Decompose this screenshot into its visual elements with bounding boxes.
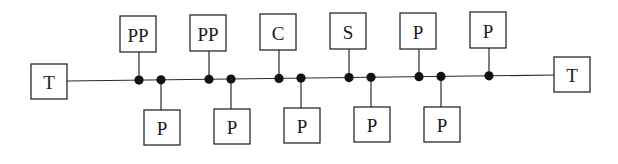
station-s-top: S <box>330 13 366 49</box>
terminator-right-label: T <box>566 65 578 86</box>
station-p-bottom: P <box>144 110 180 145</box>
station-p-bottom-label: P <box>437 115 448 136</box>
station-p-bottom-label: P <box>227 117 238 138</box>
station-p-top-label: P <box>483 21 494 42</box>
terminator-left-label: T <box>43 72 55 93</box>
terminator-left: T <box>31 64 67 99</box>
station-pp-top-label: PP <box>127 25 148 46</box>
station-p-bottom-label: P <box>367 115 378 136</box>
bus-network-diagram: TTPPPPPPCPSPPPP <box>0 0 618 164</box>
station-pp-top: PP <box>190 15 226 51</box>
tap-node-dot <box>484 71 493 80</box>
station-p-top-label: P <box>413 22 424 43</box>
tap-node-dot <box>344 73 353 82</box>
tap-node-dot <box>436 72 445 81</box>
station-p-bottom: P <box>424 107 460 142</box>
station-s-top-label: S <box>343 22 354 43</box>
tap-node-dot <box>226 74 235 83</box>
tap-node-dot <box>366 73 375 82</box>
station-pp-top: PP <box>120 16 156 52</box>
station-p-bottom: P <box>214 109 250 144</box>
tap-node-dot <box>274 74 283 83</box>
station-p-top: P <box>470 12 506 48</box>
terminator-right: T <box>554 57 590 92</box>
station-pp-top-label: PP <box>197 24 218 45</box>
tap-node-dot <box>414 72 423 81</box>
tap-node-dot <box>296 74 305 83</box>
station-p-top: P <box>400 13 436 49</box>
station-p-bottom-label: P <box>297 116 308 137</box>
station-p-bottom: P <box>354 107 390 142</box>
tap-node-dot <box>134 76 143 85</box>
tap-node-dot <box>156 75 165 84</box>
tap-node-dot <box>204 75 213 84</box>
station-c-top: C <box>260 14 296 50</box>
station-c-top-label: C <box>272 23 285 44</box>
station-p-bottom-label: P <box>157 118 168 139</box>
station-p-bottom: P <box>284 108 320 143</box>
